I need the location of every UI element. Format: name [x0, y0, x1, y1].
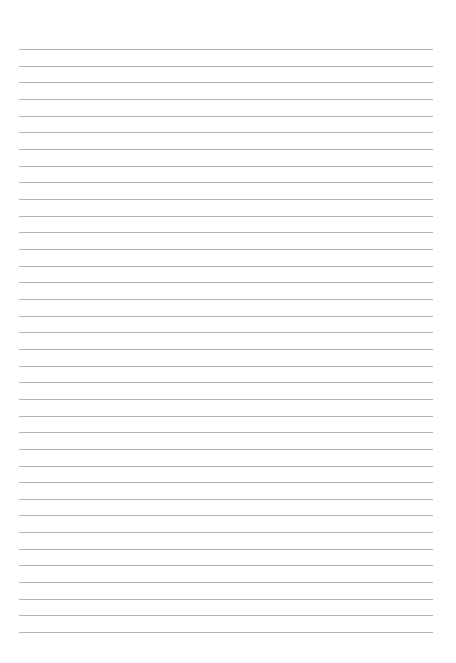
ruled-line: [19, 199, 433, 200]
ruled-line: [19, 615, 433, 616]
ruled-line: [19, 282, 433, 283]
ruled-line: [19, 249, 433, 250]
ruled-line: [19, 532, 433, 533]
ruled-line: [19, 466, 433, 467]
ruled-line: [19, 499, 433, 500]
ruled-line: [19, 216, 433, 217]
ruled-line: [19, 449, 433, 450]
ruled-line: [19, 432, 433, 433]
ruled-line: [19, 99, 433, 100]
ruled-line: [19, 632, 433, 633]
ruled-line: [19, 149, 433, 150]
ruled-line: [19, 266, 433, 267]
ruled-line: [19, 82, 433, 83]
ruled-line: [19, 349, 433, 350]
ruled-line: [19, 182, 433, 183]
ruled-line: [19, 382, 433, 383]
ruled-line: [19, 116, 433, 117]
lined-paper-page: [0, 0, 456, 663]
ruled-line: [19, 582, 433, 583]
ruled-line: [19, 332, 433, 333]
ruled-line: [19, 565, 433, 566]
ruled-line: [19, 366, 433, 367]
ruled-line: [19, 599, 433, 600]
ruled-line: [19, 416, 433, 417]
ruled-line: [19, 399, 433, 400]
ruled-line: [19, 482, 433, 483]
ruled-line: [19, 166, 433, 167]
ruled-line: [19, 232, 433, 233]
ruled-line: [19, 549, 433, 550]
ruled-line: [19, 299, 433, 300]
ruled-line: [19, 132, 433, 133]
ruled-line: [19, 316, 433, 317]
ruled-line: [19, 66, 433, 67]
ruled-line: [19, 49, 433, 50]
ruled-line: [19, 515, 433, 516]
